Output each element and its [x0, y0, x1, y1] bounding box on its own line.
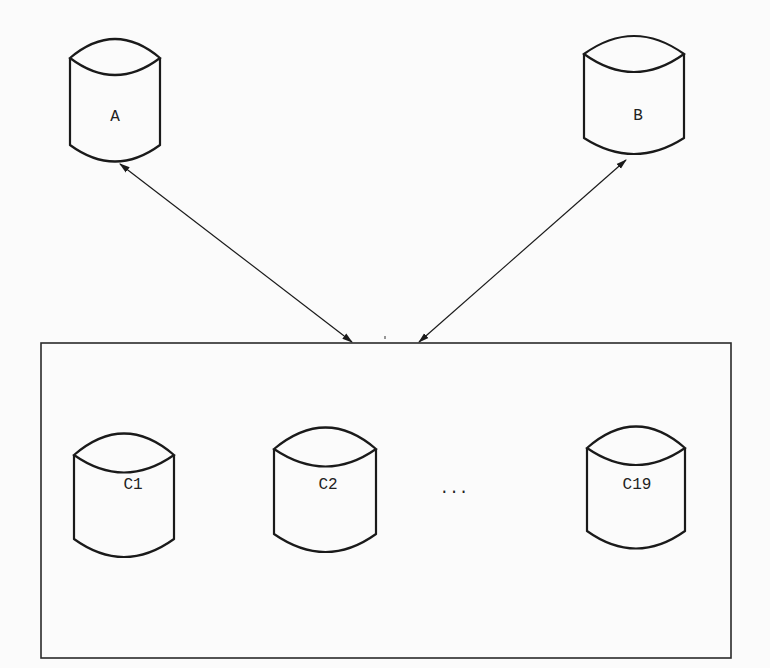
arrow-a-container [120, 164, 352, 342]
diagram-canvas [0, 0, 770, 668]
node-label-c1: C1 [123, 476, 142, 494]
node-label-c19: C19 [623, 476, 652, 494]
node-label-a: A [110, 108, 120, 126]
node-label-b: B [633, 107, 643, 125]
ellipsis-label: ... [440, 480, 469, 498]
container-box [41, 343, 731, 658]
arrow-b-container [419, 160, 626, 342]
database-icon-a [70, 39, 160, 162]
node-label-c2: C2 [318, 476, 337, 494]
database-icon-c1 [74, 434, 174, 558]
database-icon-b [584, 36, 684, 154]
